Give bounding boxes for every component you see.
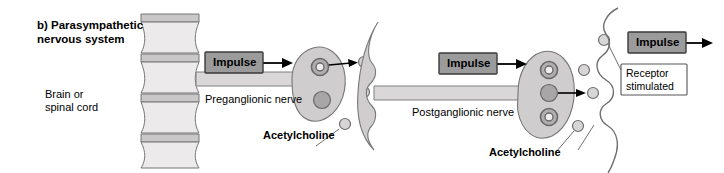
vesicle-solid bbox=[541, 85, 558, 102]
neurotransmitter-circle bbox=[573, 121, 584, 132]
impulse-box-3-label: Impulse bbox=[636, 36, 679, 48]
postganglionic-nerve-label: Postganglionic nerve bbox=[412, 106, 514, 119]
vesicle-ring bbox=[312, 59, 329, 76]
vertebra-body bbox=[141, 22, 199, 53]
brain-or-spinal-cord-label: Brain or spinal cord bbox=[45, 88, 98, 115]
impulse-arrow-1 bbox=[263, 58, 293, 68]
vertebra-body bbox=[141, 62, 199, 93]
spinal-cord-segment bbox=[141, 134, 199, 168]
receptor-stimulated-leader bbox=[608, 44, 621, 70]
vertebra-body bbox=[141, 102, 199, 133]
receptor-stimulated-label: Receptor stimulated bbox=[626, 67, 674, 93]
vesicle-ring bbox=[541, 109, 558, 126]
spinal-cord-segment bbox=[141, 94, 199, 133]
impulse-box-1-label: Impulse bbox=[213, 56, 256, 68]
spinal-cord-segment bbox=[141, 54, 199, 93]
panel-title: b) Parasympathetic nervous system bbox=[37, 18, 143, 46]
acetylcholine-label-1: Acetylcholine bbox=[263, 129, 335, 142]
neurotransmitter-circle bbox=[579, 65, 590, 76]
spinal-cord-group bbox=[141, 14, 199, 168]
neurotransmitter-circle bbox=[340, 119, 351, 130]
vertebra-cap bbox=[141, 134, 199, 142]
acetylcholine-label-2: Acetylcholine bbox=[489, 146, 561, 159]
neurotransmitter-circle bbox=[588, 88, 599, 99]
impulse-arrow-2 bbox=[497, 59, 527, 69]
postganglionic-axon bbox=[374, 86, 524, 100]
preganglionic-axon bbox=[196, 72, 294, 86]
parasympathetic-nervous-system-figure: b) Parasympathetic nervous system Brain … bbox=[0, 0, 724, 173]
vesicle-solid bbox=[314, 92, 331, 109]
vertebra-cap bbox=[141, 94, 199, 102]
spinal-cord-segment bbox=[141, 14, 199, 53]
vertebra-body bbox=[141, 142, 199, 168]
preganglionic-nerve-label: Preganglionic nerve bbox=[205, 93, 302, 106]
effector-cell-membrane bbox=[597, 8, 618, 173]
vertebra-cap bbox=[141, 54, 199, 62]
impulse-box-2-label: Impulse bbox=[447, 57, 490, 69]
impulse-arrow-3 bbox=[686, 38, 713, 48]
vertebra-cap bbox=[141, 14, 199, 22]
vesicle-ring bbox=[541, 62, 558, 79]
